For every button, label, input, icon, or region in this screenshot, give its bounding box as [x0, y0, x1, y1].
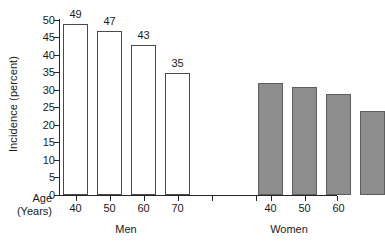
y-tick-10 [54, 160, 59, 161]
bar-value-men-70: 35 [158, 58, 198, 69]
bar-women-50 [292, 87, 317, 196]
bar-men-50 [97, 31, 122, 196]
x-tick-women-start [256, 196, 257, 201]
group-label-women: Women [229, 224, 349, 235]
x-tick-label-men-70: 70 [158, 203, 198, 214]
x-axis-line [59, 195, 337, 196]
bar-women-60 [326, 94, 351, 196]
y-axis-line [59, 19, 60, 196]
x-tick-label-women-60: 60 [319, 203, 359, 214]
y-tick-30 [54, 90, 59, 91]
bar-value-men-60: 43 [124, 30, 164, 41]
y-tick-label-35: 35 [33, 67, 55, 78]
y-tick-label-25: 25 [33, 102, 55, 113]
bar-men-70 [165, 73, 190, 196]
x-tick-men-b [110, 196, 111, 201]
y-tick-label-10: 10 [33, 155, 55, 166]
y-tick-5 [54, 177, 59, 178]
x-axis-title-line1: Age [0, 192, 52, 204]
y-tick-label-50: 50 [33, 15, 55, 26]
bar-value-men-50: 47 [90, 16, 130, 27]
x-tick-women-b [305, 196, 306, 201]
y-tick-label-5: 5 [33, 172, 55, 183]
group-label-men: Men [66, 224, 186, 235]
y-tick-label-15: 15 [33, 137, 55, 148]
y-tick-25 [54, 107, 59, 108]
bar-women-40 [258, 83, 283, 195]
y-tick-50 [54, 20, 59, 21]
y-tick-40 [54, 55, 59, 56]
y-tick-label-30: 30 [33, 85, 55, 96]
y-tick-20 [54, 125, 59, 126]
x-tick-men-d [178, 196, 179, 201]
y-tick-15 [54, 142, 59, 143]
bar-women-70 [360, 111, 385, 195]
y-tick-35 [54, 72, 59, 73]
x-axis-title-line2: (Years) [0, 205, 52, 217]
x-tick-men-c [144, 196, 145, 201]
y-tick-label-40: 40 [33, 50, 55, 61]
bar-men-60 [131, 45, 156, 196]
x-tick-men-a [76, 196, 77, 201]
y-axis-title: Incidence (percent) [7, 29, 19, 179]
y-tick-45 [54, 37, 59, 38]
y-tick-label-45: 45 [33, 32, 55, 43]
x-tick-mid [212, 196, 213, 201]
x-tick-women-a [271, 196, 272, 201]
bar-men-40 [63, 24, 88, 196]
y-tick-label-20: 20 [33, 120, 55, 131]
y-tick-0 [54, 195, 59, 196]
x-tick-women-end [337, 196, 338, 201]
